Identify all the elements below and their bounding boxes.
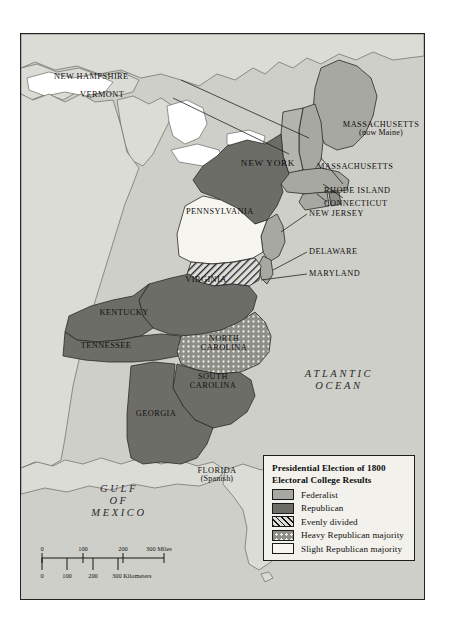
label-south-carolina-line1: SOUTH xyxy=(190,372,236,381)
label-north-carolina-line1: NORTH xyxy=(201,334,247,343)
label-maryland: MARYLAND xyxy=(309,269,360,278)
legend-label-federalist: Federalist xyxy=(301,490,338,500)
legend-swatch-republican xyxy=(272,503,294,514)
label-kentucky: KENTUCKY xyxy=(99,308,148,317)
map-page: NEW HAMPSHIRE VERMONT MASSACHUSETTS (now… xyxy=(0,0,456,636)
legend-item-heavy-republican: Heavy Republican majority xyxy=(272,530,407,541)
scale-km-tick-200: 200 xyxy=(88,572,98,579)
legend-swatch-heavy-republican xyxy=(272,530,294,541)
label-south-carolina: SOUTH CAROLINA xyxy=(190,372,236,391)
legend-item-federalist: Federalist xyxy=(272,489,407,500)
legend-item-evenly-divided: Evenly divided xyxy=(272,516,407,527)
label-north-carolina-line2: CAROLINA xyxy=(201,343,247,352)
scale-miles-tick-200: 200 xyxy=(118,545,128,552)
legend-label-slight-republican: Slight Republican majority xyxy=(301,544,402,554)
legend-swatch-evenly-divided xyxy=(272,516,294,527)
legend-item-slight-republican: Slight Republican majority xyxy=(272,543,407,554)
scale-bar: 0 100 200 300 Miles 0 100 200 300 Kilome… xyxy=(36,546,206,592)
label-gulf-of-mexico-line2: OF xyxy=(91,495,146,507)
label-gulf-of-mexico-line1: GULF xyxy=(91,483,146,495)
scale-km-unit: 300 Kilometers xyxy=(112,572,152,579)
legend-swatch-slight-republican xyxy=(272,543,294,554)
label-pennsylvania: PENNSYLVANIA xyxy=(186,207,254,216)
label-vermont: VERMONT xyxy=(80,90,124,99)
legend-label-heavy-republican: Heavy Republican majority xyxy=(301,530,404,540)
label-tennessee: TENNESSEE xyxy=(81,341,132,350)
scale-miles-tick-0: 0 xyxy=(40,545,43,552)
label-rhode-island: RHODE ISLAND xyxy=(324,186,390,195)
label-atlantic-ocean-line1: ATLANTIC xyxy=(305,368,373,380)
legend-title: Presidential Election of 1800 Electoral … xyxy=(272,462,407,486)
label-florida: FLORIDA (Spanish) xyxy=(197,466,236,484)
label-new-hampshire: NEW HAMPSHIRE xyxy=(54,72,129,81)
scale-km-tick-0: 0 xyxy=(40,572,43,579)
legend-label-republican: Republican xyxy=(301,503,343,513)
label-gulf-of-mexico-line3: MEXICO xyxy=(91,507,146,519)
map-legend: Presidential Election of 1800 Electoral … xyxy=(263,455,415,561)
label-new-york-line1: NEW YORK xyxy=(241,158,295,168)
label-south-carolina-line2: CAROLINA xyxy=(190,381,236,390)
label-new-jersey: NEW JERSEY xyxy=(309,209,364,218)
label-atlantic-ocean-line2: OCEAN xyxy=(305,380,373,392)
label-north-carolina: NORTH CAROLINA xyxy=(201,334,247,353)
label-atlantic-ocean: ATLANTIC OCEAN xyxy=(305,368,373,392)
scale-miles-tick-100: 100 xyxy=(78,545,88,552)
label-georgia: GEORGIA xyxy=(136,409,176,418)
label-delaware: DELAWARE xyxy=(309,247,358,256)
scale-miles-unit: 300 Miles xyxy=(146,545,172,552)
legend-swatch-federalist xyxy=(272,489,294,500)
map-frame: NEW HAMPSHIRE VERMONT MASSACHUSETTS (now… xyxy=(20,33,425,600)
label-virginia: VIRGINIA xyxy=(185,275,226,284)
legend-title-line2: Electoral College Results xyxy=(272,474,407,486)
legend-title-line1: Presidential Election of 1800 xyxy=(272,462,407,474)
label-florida-sub: (Spanish) xyxy=(197,475,236,484)
legend-label-evenly-divided: Evenly divided xyxy=(301,517,358,527)
label-massachusetts-maine: MASSACHUSETTS (now Maine) xyxy=(343,120,419,138)
label-massachusetts-maine-sub: (now Maine) xyxy=(343,129,419,138)
label-new-york: NEW YORK xyxy=(241,158,295,168)
label-gulf-of-mexico: GULF OF MEXICO xyxy=(91,483,146,518)
label-massachusetts: MASSACHUSETTS xyxy=(317,162,393,171)
label-connecticut: CONNECTICUT xyxy=(324,199,388,208)
scale-km-tick-100: 100 xyxy=(62,572,72,579)
legend-item-republican: Republican xyxy=(272,503,407,514)
